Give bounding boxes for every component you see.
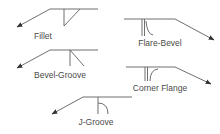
fillet-weld-symbol: Fillet <box>17 9 98 41</box>
corner-flange-weld-symbol: Corner Flange <box>126 67 211 93</box>
j-groove-curve-icon <box>98 103 108 114</box>
bevel-groove-label: Bevel-Groove <box>34 70 86 80</box>
fillet-leader-arrow <box>17 9 98 27</box>
j-groove-weld-symbol: J-Groove <box>52 97 132 127</box>
j-groove-leader-arrow <box>52 97 132 114</box>
bevel-groove-leader-arrow <box>17 50 98 68</box>
j-groove-label: J-Groove <box>79 117 114 127</box>
fillet-triangle-icon <box>64 9 80 26</box>
weld-symbols-diagram: Fillet Flare-Bevel Bevel-Groove Corner F… <box>0 0 220 134</box>
bevel-groove-bevel-icon <box>70 50 84 66</box>
flare-bevel-label: Flare-Bevel <box>138 38 182 48</box>
fillet-label: Fillet <box>34 31 53 41</box>
corner-flange-label: Corner Flange <box>133 83 188 93</box>
flare-bevel-leader-arrow <box>124 19 214 40</box>
flare-bevel-curve-icon <box>146 21 153 35</box>
flare-bevel-weld-symbol: Flare-Bevel <box>124 19 214 48</box>
corner-flange-curve-icon <box>150 69 158 81</box>
bevel-groove-weld-symbol: Bevel-Groove <box>17 50 98 80</box>
corner-flange-leader-arrow <box>126 67 211 84</box>
